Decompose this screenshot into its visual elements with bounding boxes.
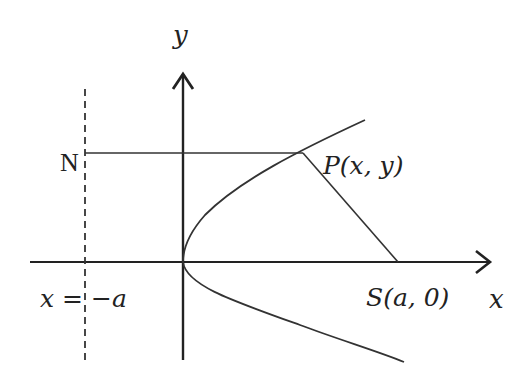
y-axis-label: y — [172, 20, 188, 50]
x-axis-label: x — [489, 284, 504, 314]
point-n-label: N — [60, 148, 79, 177]
focus-label: S(a, 0) — [366, 283, 449, 312]
point-p-label: P(x, y) — [322, 151, 403, 180]
directrix-label: x = −a — [40, 284, 127, 313]
parabola-diagram: y x N P(x, y) S(a, 0) x = −a — [0, 0, 530, 388]
